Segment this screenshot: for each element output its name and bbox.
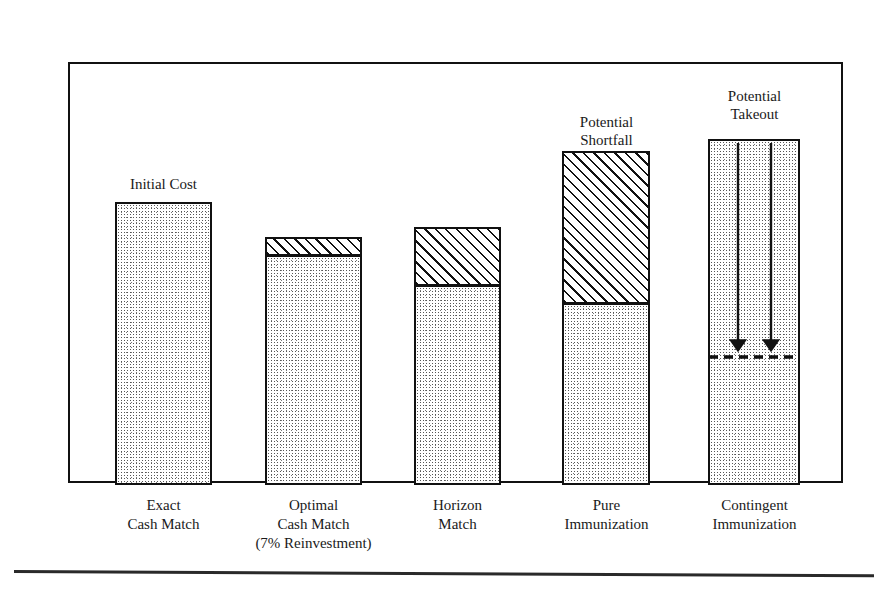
category-label-horizon-match: Horizon Match [392,496,523,534]
category-label-optimal-cash-match-line3: (7% Reinvestment) [234,534,393,553]
category-label-exact-cash-match: Exact Cash Match [93,496,234,534]
category-label-optimal-cash-match-line2: Cash Match [234,515,393,534]
category-label-contingent-immunization: Contingent Immunization [684,496,825,534]
category-label-pure-immunization: Pure Immunization [536,496,677,534]
category-label-pure-immunization-line2: Immunization [536,515,677,534]
category-label-horizon-match-line2: Match [392,515,523,534]
category-label-optimal-cash-match-line1: Optimal [234,496,393,515]
category-label-exact-cash-match-line1: Exact [93,496,234,515]
category-label-horizon-match-line1: Horizon [392,496,523,515]
category-label-contingent-immunization-line1: Contingent [684,496,825,515]
category-label-exact-cash-match-line2: Cash Match [93,515,234,534]
category-label-pure-immunization-line1: Pure [536,496,677,515]
category-label-optimal-cash-match: Optimal Cash Match (7% Reinvestment) [234,496,393,552]
figure-cost-of-funding-portfolio: Cost of Funding Portfolio Initial Cost P… [0,0,886,595]
category-label-contingent-immunization-line2: Immunization [684,515,825,534]
